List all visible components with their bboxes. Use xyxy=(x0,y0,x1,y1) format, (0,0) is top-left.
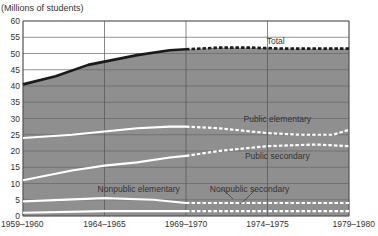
y-tick-label: 30 xyxy=(11,114,21,124)
y-tick-label: 25 xyxy=(11,130,21,140)
x-tick-label: 1959–1960 xyxy=(1,219,44,229)
y-tick-label: 60 xyxy=(11,16,21,26)
y-tick-label: 55 xyxy=(11,32,21,42)
y-tick-label: 50 xyxy=(11,49,21,59)
y-tick-label: 5 xyxy=(15,195,20,205)
series-label: Total xyxy=(267,36,285,46)
x-tick-label: 1969–1970 xyxy=(165,219,208,229)
y-tick-label: 35 xyxy=(11,97,21,107)
enrollment-chart: (Millions of students) 05101520253035404… xyxy=(0,0,378,236)
x-tick-label: 1964–1965 xyxy=(83,219,126,229)
series-label: Nonpublic secondary xyxy=(210,184,290,194)
x-axis-ticks: 1959–19601964–19651969–19701974–19751979… xyxy=(1,219,375,229)
x-tick-label: 1974–1975 xyxy=(246,219,289,229)
y-axis-label: (Millions of students) xyxy=(1,3,84,13)
x-tick-label: 1979–1980 xyxy=(332,219,375,229)
series-label: Public secondary xyxy=(245,151,310,161)
y-tick-label: 40 xyxy=(11,81,21,91)
y-tick-label: 10 xyxy=(11,179,21,189)
y-tick-label: 15 xyxy=(11,162,21,172)
series-label: Nonpublic elementary xyxy=(98,184,181,194)
y-tick-label: 45 xyxy=(11,65,21,75)
series-label: Public elementary xyxy=(243,114,311,124)
y-tick-label: 20 xyxy=(11,146,21,156)
y-axis-ticks: 051015202530354045505560 xyxy=(11,16,21,221)
